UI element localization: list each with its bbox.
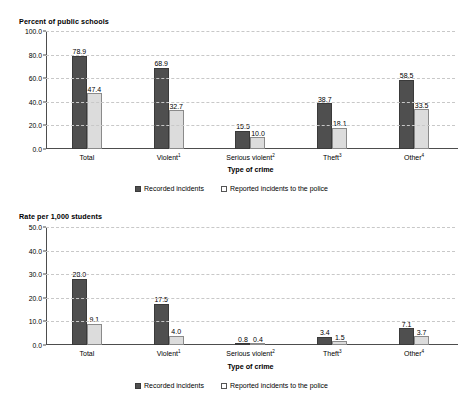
bar-recorded[interactable]: 28.0: [72, 279, 87, 345]
footnote-marker: 3: [339, 349, 342, 354]
x-axis-title: Type of crime: [46, 165, 455, 174]
legend-swatch-reported-icon: [221, 383, 227, 389]
bar-group: 58.533.5Other4: [373, 31, 455, 149]
bar-recorded[interactable]: 58.5: [399, 80, 414, 149]
bar-pair: 7.13.7: [399, 227, 429, 345]
x-axis-category-label: Theft3: [291, 154, 373, 161]
chart-panel-percent-of-public-schools: Percent of public schools 78.947.4Total6…: [0, 0, 463, 204]
legend-item-reported: Reported incidents to the police: [221, 382, 328, 389]
x-axis-category-label: Violent1: [128, 154, 210, 161]
bar-recorded[interactable]: 0.8: [235, 343, 250, 345]
bar-group: 38.718.1Theft3: [291, 31, 373, 149]
legend-item-reported: Reported incidents to the police: [221, 185, 328, 192]
bar-group: 15.510.0Serious violent2: [210, 31, 292, 149]
bar-pair: 0.80.4: [235, 227, 265, 345]
bar-pair: 3.41.5: [317, 227, 347, 345]
y-axis-tick-label: 30.0: [29, 271, 42, 278]
y-axis-tick-label: 60.0: [29, 75, 42, 82]
bar-reported[interactable]: 10.0: [250, 137, 265, 149]
footnote-marker: 4: [422, 153, 425, 158]
bar-value-label: 33.5: [415, 102, 429, 109]
y-axis-tick-mark: [43, 31, 46, 32]
x-axis-category-label: Theft3: [291, 350, 373, 357]
y-axis-tick-mark: [43, 149, 46, 150]
y-axis-tick-mark: [43, 78, 46, 79]
x-axis-category-label: Total: [46, 154, 128, 161]
bar-reported[interactable]: 3.7: [414, 336, 429, 345]
bar-recorded[interactable]: 15.5: [235, 131, 250, 149]
bar-value-label: 3.4: [320, 329, 330, 336]
bar-pair: 78.947.4: [72, 31, 102, 149]
footnote-marker: 4: [422, 349, 425, 354]
x-axis-title: Type of crime: [46, 362, 455, 371]
y-axis-tick-mark: [43, 250, 46, 251]
bar-value-label: 32.7: [169, 103, 183, 110]
bar-pair: 17.54.0: [154, 227, 184, 345]
y-axis-tick-label: 40.0: [29, 98, 42, 105]
y-axis-tick-label: 80.0: [29, 51, 42, 58]
bar-pair: 68.932.7: [154, 31, 184, 149]
bar-reported[interactable]: 18.1: [332, 128, 347, 149]
gridline: [46, 55, 455, 56]
gridline: [46, 298, 455, 299]
legend: Recorded incidents Reported incidents to…: [0, 185, 463, 192]
y-axis-tick-label: 0.0: [33, 146, 42, 153]
gridline: [46, 102, 455, 103]
footnote-marker: 1: [178, 153, 181, 158]
y-axis-tick-mark: [43, 274, 46, 275]
legend-item-recorded: Recorded incidents: [135, 382, 204, 389]
bar-reported[interactable]: 9.1: [87, 324, 102, 345]
x-axis-category-label: Total: [46, 350, 128, 357]
y-axis-tick-label: 10.0: [29, 318, 42, 325]
x-axis-category-label: Violent1: [128, 350, 210, 357]
bar-reported[interactable]: 32.7: [169, 110, 184, 149]
y-axis-title: Percent of public schools: [19, 17, 109, 26]
legend-label-reported: Reported incidents to the police: [230, 382, 328, 389]
bar-pair: 28.09.1: [72, 227, 102, 345]
y-axis-tick-mark: [43, 54, 46, 55]
x-axis-category-label: Other4: [373, 350, 455, 357]
bar-group: 68.932.7Violent1: [128, 31, 210, 149]
gridline: [46, 321, 455, 322]
bar-group: 17.54.0Violent1: [128, 227, 210, 345]
legend-item-recorded: Recorded incidents: [135, 185, 204, 192]
bar-recorded[interactable]: 7.1: [399, 328, 414, 345]
bar-groups: 28.09.1Total17.54.0Violent10.80.4Serious…: [46, 227, 455, 345]
legend-swatch-recorded-icon: [135, 383, 141, 389]
legend-label-reported: Reported incidents to the police: [230, 185, 328, 192]
bar-value-label: 1.5: [335, 334, 345, 341]
bar-recorded[interactable]: 68.9: [154, 68, 169, 149]
footnote-marker: 1: [178, 349, 181, 354]
bar-value-label: 0.4: [253, 336, 263, 343]
y-axis-tick-label: 0.0: [33, 342, 42, 349]
gridline: [46, 227, 455, 228]
bar-value-label: 68.9: [154, 60, 168, 67]
bar-recorded[interactable]: 3.4: [317, 337, 332, 345]
y-axis-tick-mark: [43, 345, 46, 346]
y-axis-tick-label: 20.0: [29, 122, 42, 129]
bar-recorded[interactable]: 17.5: [154, 304, 169, 345]
bar-value-label: 3.7: [417, 329, 427, 336]
gridline: [46, 125, 455, 126]
y-axis-tick-mark: [43, 297, 46, 298]
bar-reported[interactable]: 4.0: [169, 336, 184, 345]
legend-label-recorded: Recorded incidents: [144, 382, 204, 389]
bar-group: 28.09.1Total: [46, 227, 128, 345]
bar-reported[interactable]: 1.5: [332, 341, 347, 345]
legend: Recorded incidents Reported incidents to…: [0, 382, 463, 389]
bar-pair: 58.533.5: [399, 31, 429, 149]
legend-swatch-recorded-icon: [135, 186, 141, 192]
y-axis-tick-mark: [43, 101, 46, 102]
bar-value-label: 47.4: [88, 86, 102, 93]
x-axis-category-label: Serious violent2: [210, 154, 292, 161]
y-axis-tick-mark: [43, 227, 46, 228]
bar-pair: 38.718.1: [317, 31, 347, 149]
bar-group: 78.947.4Total: [46, 31, 128, 149]
gridline: [46, 274, 455, 275]
two-panel-bar-chart-figure: Percent of public schools 78.947.4Total6…: [0, 0, 463, 409]
plot-area: 78.947.4Total68.932.7Violent115.510.0Ser…: [46, 31, 455, 149]
legend-label-recorded: Recorded incidents: [144, 185, 204, 192]
bar-reported[interactable]: 0.4: [250, 343, 265, 345]
bar-reported[interactable]: 33.5: [414, 109, 429, 149]
gridline: [46, 78, 455, 79]
